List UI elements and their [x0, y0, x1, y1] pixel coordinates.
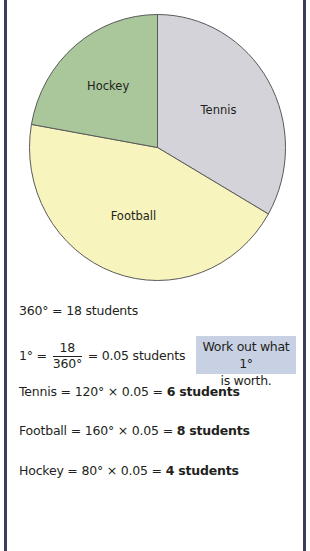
fraction-denominator: 360°: [53, 357, 82, 371]
hint-callout: Work out what 1° is worth.: [196, 336, 296, 374]
one-degree-lhs: 1° =: [19, 348, 47, 363]
one-degree-line: 1° = 18 360° = 0.05 students: [19, 342, 185, 370]
result-expression: Tennis = 120° × 0.05 =: [19, 384, 167, 399]
result-answer: 6 students: [167, 384, 240, 399]
result-line-hockey: Hockey = 80° × 0.05 = 4 students: [19, 463, 239, 478]
pie-label-hockey: Hockey: [87, 79, 129, 93]
total-degrees-line: 360° = 18 students: [19, 303, 138, 318]
pie-label-tennis: Tennis: [200, 103, 237, 117]
result-answer: 8 students: [177, 423, 250, 438]
result-expression: Hockey = 80° × 0.05 =: [19, 463, 166, 478]
hint-line-1: Work out what 1°: [196, 338, 296, 372]
result-line-football: Football = 160° × 0.05 = 8 students: [19, 423, 250, 438]
one-degree-rhs: = 0.05 students: [88, 348, 186, 363]
result-line-tennis: Tennis = 120° × 0.05 = 6 students: [19, 384, 240, 399]
fraction-numerator: 18: [53, 342, 82, 357]
result-expression: Football = 160° × 0.05 =: [19, 423, 177, 438]
pie-label-football: Football: [111, 209, 157, 223]
pie-chart: TennisFootballHockey: [0, 0, 310, 290]
result-answer: 4 students: [166, 463, 239, 478]
fraction: 18 360°: [53, 342, 82, 370]
